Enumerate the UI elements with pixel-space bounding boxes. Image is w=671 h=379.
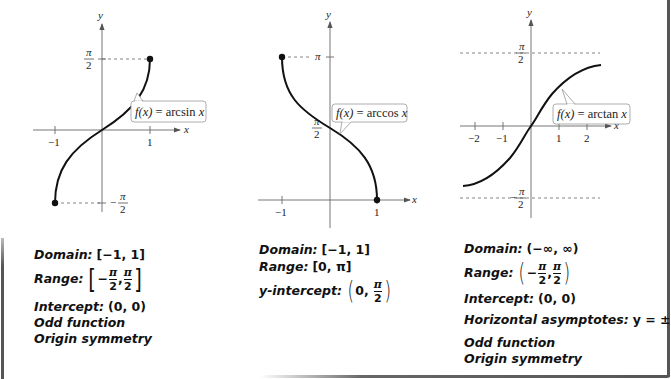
arccos-graph: x y −1 1 π π 2 f(x) = arccos x — [258, 8, 417, 228]
svg-text:y: y — [325, 8, 331, 20]
intercept-label: Intercept: — [34, 301, 104, 314]
x-tick-1: 1 — [147, 136, 153, 148]
x-axis-label: x — [183, 123, 189, 135]
svg-text:−1: −1 — [275, 206, 287, 218]
arcsin-graph: x y −1 1 π 2 − π 2 f(x) = arcsin x — [33, 9, 206, 215]
function-label-arccos: f(x) = arccos x — [332, 104, 408, 134]
svg-text:2: 2 — [518, 198, 524, 210]
svg-text:−: − — [110, 196, 116, 208]
svg-text:2: 2 — [584, 132, 590, 144]
svg-text:−1: −1 — [496, 132, 508, 144]
y-tick-pi-over-2-num: π — [86, 46, 92, 58]
arcsin-curve — [55, 59, 150, 203]
parity: Odd function — [34, 317, 125, 330]
y-tick-neg-pi-over-2-num: π — [120, 190, 126, 202]
domain-label: Domain: — [34, 249, 93, 262]
svg-text:π: π — [519, 185, 525, 197]
asymptote-value: y = ± — [633, 314, 671, 327]
svg-text:−2: −2 — [468, 132, 480, 144]
svg-text:f(x) = arctan x: f(x) = arctan x — [557, 107, 627, 121]
arctan-curve — [463, 65, 601, 186]
svg-text:2: 2 — [86, 59, 92, 71]
y-axis-label: y — [97, 9, 103, 21]
svg-text:x: x — [411, 193, 417, 205]
intercept-value: (0, 0) — [108, 301, 146, 314]
arccos-curve — [282, 57, 377, 200]
svg-text:2: 2 — [314, 128, 320, 140]
svg-text:1: 1 — [556, 132, 562, 144]
arctan-graph: x y −2 −1 1 2 π 2 − π 2 f(x) = arctan x — [460, 6, 630, 218]
svg-text:f(x) = arccos x: f(x) = arccos x — [336, 106, 408, 120]
svg-text:y: y — [526, 6, 532, 18]
svg-text:f(x) = arcsin x: f(x) = arcsin x — [135, 105, 205, 119]
function-label-arcsin: f(x) = arcsin x — [131, 93, 206, 122]
domain-value: [−1, 1] — [97, 249, 145, 262]
svg-text:2: 2 — [120, 203, 126, 215]
symmetry: Origin symmetry — [34, 333, 152, 346]
range-label: Range: — [34, 273, 83, 286]
svg-text:−: − — [510, 191, 516, 203]
function-label-arctan: f(x) = arctan x — [553, 89, 630, 124]
asymptote-label: Horizontal asymptotes: — [464, 314, 629, 327]
svg-text:π: π — [519, 40, 525, 52]
x-tick-neg1: −1 — [48, 136, 60, 148]
y-tick-pi: π — [315, 50, 321, 62]
svg-text:2: 2 — [518, 53, 524, 65]
svg-text:1: 1 — [374, 206, 380, 218]
